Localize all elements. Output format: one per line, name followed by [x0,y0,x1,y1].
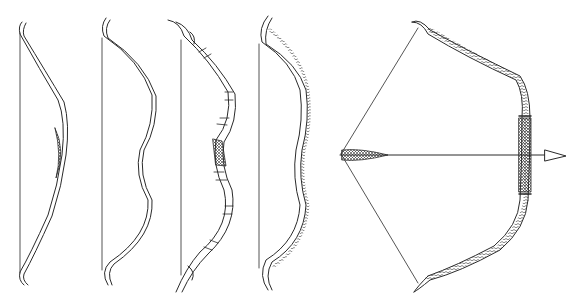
bow-1 [19,22,67,285]
bow-3 [168,20,236,292]
bow-4 [259,16,309,290]
arrow [340,150,566,161]
bows-illustration [0,0,581,308]
bow-5 [340,21,566,292]
bow-2 [102,18,156,285]
